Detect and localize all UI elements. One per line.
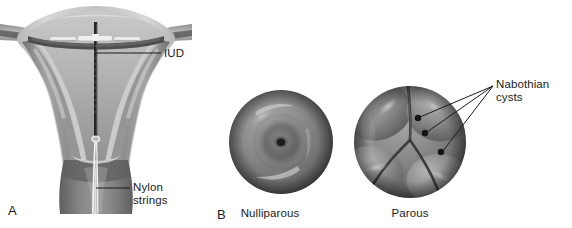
nabothian-cysts-label: Nabothian cysts [496, 78, 572, 104]
nylon-strings-label: Nylon strings [133, 181, 168, 207]
figure-container: IUD Nylon strings Nabothian cysts A B Nu… [0, 0, 572, 228]
nabothian-cyst-dot [422, 130, 428, 136]
nabothian-cyst-dot [438, 149, 444, 155]
parous-caption: Parous [345, 207, 475, 219]
iud-label: IUD [164, 47, 184, 60]
medical-illustration-svg [0, 0, 572, 228]
nulliparous-caption: Nulliparous [205, 207, 335, 219]
panel-a-letter: A [8, 203, 17, 218]
panel-b-cervix-illustration [229, 75, 493, 209]
iud-tip [91, 136, 100, 143]
parous-cervix [335, 75, 493, 209]
nulliparous-cervix [229, 90, 333, 194]
nabothian-cyst-dot [415, 115, 421, 121]
